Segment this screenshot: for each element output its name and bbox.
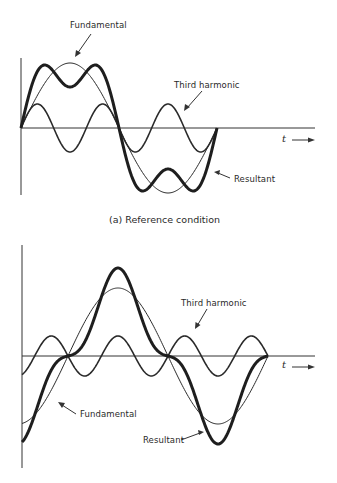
label-third-harmonic: Third harmonic — [174, 80, 240, 90]
label-resultant: Resultant — [143, 435, 184, 445]
label-fundamental: Fundamental — [80, 409, 137, 419]
figure-a-reference-condition: Fundamental Third harmonic Resultant t (… — [0, 0, 337, 240]
figure-caption: (a) Reference condition — [109, 214, 220, 225]
label-third-harmonic: Third harmonic — [181, 298, 247, 308]
waveform-plot-a — [0, 0, 337, 240]
arrow-third-harmonic — [195, 309, 207, 329]
label-resultant: Resultant — [234, 174, 275, 184]
arrow-fundamental — [75, 34, 91, 57]
waveform-plot-b — [0, 240, 337, 483]
label-fundamental: Fundamental — [70, 20, 127, 30]
time-arrow-icon — [292, 365, 315, 370]
time-arrow-icon — [292, 138, 315, 143]
figure-b-shifted-harmonic: Third harmonic Fundamental Resultant t — [0, 240, 337, 483]
arrow-third-harmonic — [184, 91, 202, 111]
label-time-axis: t — [282, 133, 286, 144]
arrow-resultant — [181, 430, 204, 440]
arrow-resultant — [214, 170, 230, 178]
label-time-axis: t — [282, 359, 286, 370]
arrow-fundamental — [58, 402, 76, 414]
